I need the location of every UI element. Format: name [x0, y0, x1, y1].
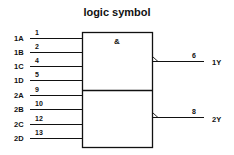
input-label: 1A	[14, 34, 24, 43]
input-2b: 2B 10	[14, 100, 82, 114]
output-1y: 6 1Y	[153, 52, 221, 67]
input-label: 2A	[14, 91, 24, 100]
input-2d: 2D 13	[14, 129, 82, 143]
input-label: 1D	[14, 76, 24, 85]
pin-number: 10	[35, 100, 43, 107]
output-indicator-icon	[153, 113, 158, 118]
output-indicator-icon	[153, 57, 158, 62]
diagram-title: logic symbol	[83, 6, 150, 18]
input-2c: 2C 12	[14, 115, 82, 129]
input-1d: 1D 5	[14, 71, 82, 85]
input-1c: 1C 4	[14, 57, 82, 71]
and-symbol: &	[114, 37, 120, 46]
pin-number: 12	[35, 115, 43, 122]
input-label: 1C	[14, 62, 24, 71]
pin-number: 4	[35, 57, 39, 64]
input-2a: 2A 9	[14, 86, 82, 100]
input-label: 1B	[14, 48, 24, 57]
pin-number: 2	[35, 43, 39, 50]
input-label: 2B	[14, 105, 24, 114]
output-label: 1Y	[212, 58, 221, 67]
logic-symbol-diagram: logic symbol & 1A 1 1B 2 1C 4 1D 5 2A 9 …	[0, 0, 234, 155]
pin-number: 6	[192, 52, 196, 59]
pin-number: 8	[192, 108, 196, 115]
output-label: 2Y	[212, 115, 221, 124]
output-2y: 8 2Y	[153, 108, 221, 124]
input-1b: 1B 2	[14, 43, 82, 57]
input-label: 2D	[14, 134, 24, 143]
pin-number: 9	[35, 86, 39, 93]
pin-number: 1	[35, 29, 39, 36]
pin-number: 5	[35, 71, 39, 78]
input-1a: 1A 1	[14, 29, 82, 43]
pin-number: 13	[35, 129, 43, 136]
input-label: 2C	[14, 120, 24, 129]
